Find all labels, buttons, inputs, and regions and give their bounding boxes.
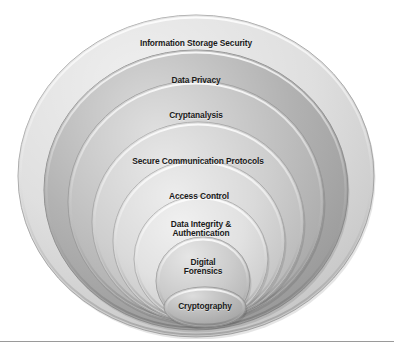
ellipse-cryptography-gloss bbox=[164, 287, 246, 327]
ellipse-cryptography[interactable] bbox=[164, 287, 248, 330]
nested-ellipse-diagram bbox=[0, 0, 394, 348]
bottom-divider-rule bbox=[0, 341, 394, 342]
diagram-canvas: Information Storage SecurityData Privacy… bbox=[0, 0, 394, 348]
ellipse-stack bbox=[18, 15, 376, 340]
